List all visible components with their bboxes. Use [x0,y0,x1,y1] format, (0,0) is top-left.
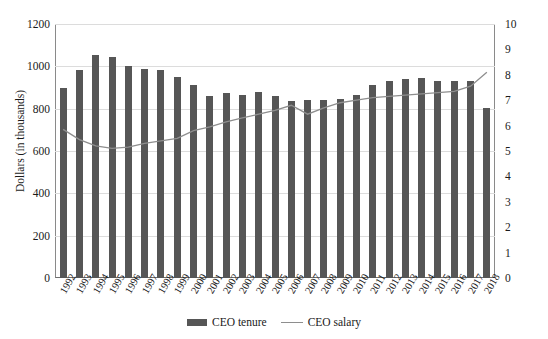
bar-slot [104,24,120,278]
bar-slot [397,24,413,278]
bar [304,100,311,278]
y-axis-right-tick-label: 6 [505,120,511,132]
x-axis-tick-slot: 2013 [397,279,413,315]
bar [467,81,474,278]
x-axis-tick-slot: 2016 [446,279,462,315]
y-axis-right-tick-label: 3 [505,196,511,208]
bar-slot [218,24,234,278]
bar [141,69,148,278]
y-axis-left-tick-label: 400 [33,187,50,199]
x-axis-tick-slot: 1992 [55,279,71,315]
plot-area [55,24,495,278]
x-axis-tick-slot: 2004 [251,279,267,315]
y-axis-right-tick-label: 10 [505,18,517,30]
legend-item-ceo-tenure: CEO tenure [187,316,267,328]
x-axis-tick-slot: 2018 [479,279,495,315]
bar-slot [299,24,315,278]
bar-slot [446,24,462,278]
y-axis-right-tick-label: 2 [505,221,511,233]
bar [239,95,246,278]
x-axis-tick-slot: 1995 [104,279,120,315]
bar-slot [283,24,299,278]
y-axis-right-tick-label: 7 [505,94,511,106]
x-axis-tick-slot: 2014 [414,279,430,315]
bar-slot [185,24,201,278]
bar-slot [202,24,218,278]
x-axis-tick-slot: 1997 [136,279,152,315]
x-axis-tick-labels: 1992199319941995199619971998199920002001… [55,279,495,315]
x-axis-tick-slot: 2010 [348,279,364,315]
legend-label-ceo-tenure: CEO tenure [212,316,267,328]
bar [255,92,262,278]
x-axis-tick-slot: 2012 [381,279,397,315]
bar [125,66,132,278]
x-axis-tick-slot: 1994 [88,279,104,315]
x-axis-tick-slot: 2011 [365,279,381,315]
bar [434,81,441,278]
bar-slot [332,24,348,278]
bar-slot [316,24,332,278]
bar [92,55,99,278]
chart-container: Dollars (in thousands) 02004006008001000… [0,0,548,339]
legend-item-ceo-salary: CEO salary [281,316,361,328]
x-axis-tick-slot: 2002 [218,279,234,315]
x-axis-tick-slot: 2001 [202,279,218,315]
y-axis-right-tick-label: 8 [505,69,511,81]
bar-slot [462,24,478,278]
y-axis-right-tick-label: 1 [505,247,511,259]
bar-slot [169,24,185,278]
bar [320,100,327,278]
bar-slot [120,24,136,278]
y-axis-right-tick-label: 5 [505,145,511,157]
x-axis-tick-slot: 2009 [332,279,348,315]
x-axis-tick-slot: 1999 [169,279,185,315]
x-axis-tick-slot: 2017 [462,279,478,315]
bar-swatch-icon [187,319,207,326]
legend-label-ceo-salary: CEO salary [308,316,361,328]
bar [157,70,164,278]
y-axis-left-tick-label: 1000 [27,60,50,72]
bar-slot [251,24,267,278]
y-axis-left-tick-label: 800 [33,103,50,115]
chart-legend: CEO tenure CEO salary [0,316,548,328]
bar [60,88,67,279]
bar [402,79,409,278]
x-axis-tick-slot: 2008 [316,279,332,315]
bar-slot [430,24,446,278]
bar-slot [153,24,169,278]
x-axis-tick-slot: 2000 [185,279,201,315]
line-swatch-icon [281,322,303,323]
bar [174,77,181,278]
bar [337,99,344,278]
bar [223,93,230,278]
y-axis-right-tick-label: 0 [505,272,511,284]
bar-slot [88,24,104,278]
bar-slot [267,24,283,278]
bar [206,96,213,278]
bar [190,85,197,278]
y-axis-left-tick-label: 200 [33,230,50,242]
bar [109,57,116,278]
bar-slot [348,24,364,278]
bar-slot [55,24,71,278]
bar [272,96,279,278]
y-axis-left-ticks: 020040060080010001200 [4,24,50,278]
bar-slot [71,24,87,278]
x-axis-tick-slot: 2005 [267,279,283,315]
x-axis-tick-slot: 2007 [299,279,315,315]
y-axis-right-ticks: 012345678910 [499,24,529,278]
bar [288,101,295,278]
bar [483,108,490,278]
bar-slot [136,24,152,278]
bar [418,78,425,278]
x-axis-tick-slot: 1993 [71,279,87,315]
bar-slot [479,24,495,278]
bar-slot [365,24,381,278]
bar-slot [234,24,250,278]
bar [451,81,458,278]
bar-slot [414,24,430,278]
y-axis-right-tick-label: 9 [505,43,511,55]
y-axis-left-tick-label: 1200 [27,18,50,30]
y-axis-left-tick-label: 600 [33,145,50,157]
x-axis-tick-slot: 2006 [283,279,299,315]
